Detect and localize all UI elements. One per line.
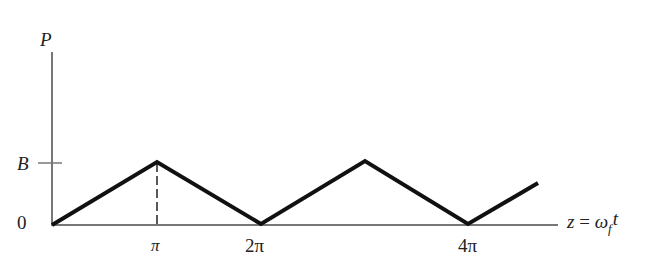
triangular-wave-plot	[0, 0, 645, 268]
y-axis-label: P	[40, 30, 52, 49]
x-axis-label: z = ωft	[567, 212, 618, 235]
x-axis-equals: =	[579, 211, 590, 232]
x-axis-z: z	[567, 211, 574, 232]
four-pi-label: 4π	[458, 236, 477, 255]
two-pi-label: 2π	[245, 236, 264, 255]
x-axis-omega: ω	[595, 211, 608, 232]
x-axis-subscript: f	[608, 221, 612, 236]
pi-label: π	[151, 237, 160, 254]
b-tick-label: B	[17, 154, 29, 173]
zero-label: 0	[17, 213, 27, 232]
wave-line	[52, 161, 538, 225]
x-axis-t: t	[613, 208, 618, 229]
